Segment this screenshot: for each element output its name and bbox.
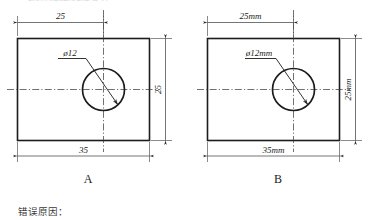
- drawing-sheet: 机械制图错误判断练习: [0, 0, 383, 220]
- hole-dimension-label-a: ø12: [62, 48, 77, 58]
- bottom-dimension-label-b: 35mm: [262, 145, 285, 155]
- hole-leader-arrow-b: [276, 59, 308, 106]
- hole-leader-arrow-a: [86, 59, 118, 106]
- figure-b-group: 25mm 25mm 35mm ø12mm B: [197, 10, 362, 186]
- hole-dimension-label-b: ø12mm: [245, 48, 273, 58]
- figure-label-a: A: [84, 172, 93, 186]
- error-reason-prompt: 错误原因：: [18, 204, 68, 218]
- figure-label-b: B: [274, 172, 282, 186]
- right-dimension-label-a: 25: [153, 85, 163, 95]
- right-dimension-label-b: 25mm: [343, 78, 353, 100]
- top-dimension-label-b: 25mm: [240, 11, 262, 21]
- top-dimension-label-a: 25: [56, 11, 66, 21]
- technical-drawing-canvas: 25 25 35 ø12 A: [0, 0, 383, 220]
- bottom-dimension-label-a: 35: [78, 145, 89, 155]
- figure-a-group: 25 25 35 ø12 A: [7, 10, 172, 186]
